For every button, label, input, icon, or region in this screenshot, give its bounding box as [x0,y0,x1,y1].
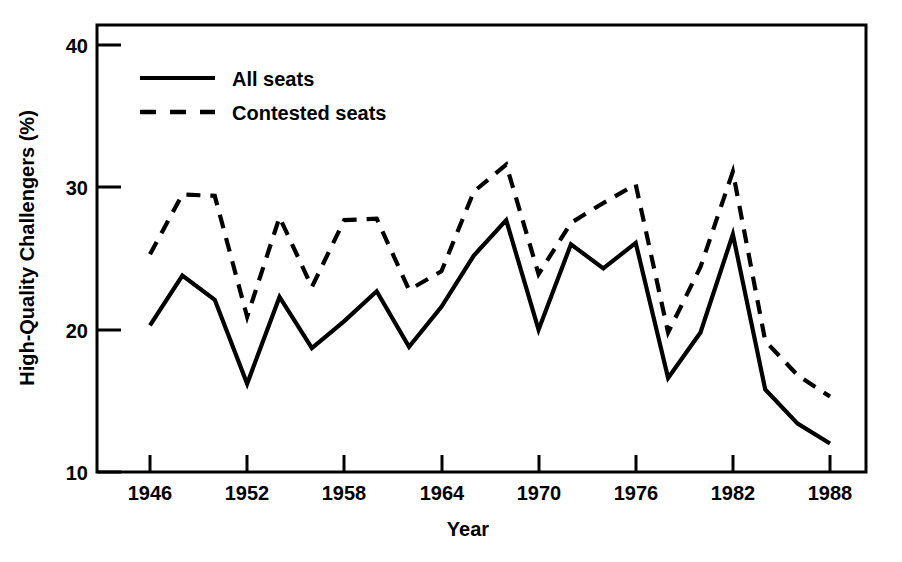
chart-figure: 40 30 20 10 High-Quality Challengers (%)… [0,0,902,562]
y-axis-title: High-Quality Challengers (%) [16,110,38,386]
y-axis-tick-labels: 40 30 20 10 [66,35,88,484]
y-axis-ticks [97,45,121,472]
y-tick-label-30: 30 [66,177,88,199]
x-tick-label-1970: 1970 [517,482,562,504]
x-tick-label-1952: 1952 [225,482,270,504]
x-tick-label-1964: 1964 [420,482,465,504]
series-line-contested-seats [150,165,830,397]
x-tick-label-1976: 1976 [614,482,659,504]
x-tick-label-1988: 1988 [808,482,853,504]
y-tick-label-10: 10 [66,462,88,484]
legend-label-all-seats: All seats [232,68,314,90]
y-tick-label-20: 20 [66,320,88,342]
y-tick-label-40: 40 [66,35,88,57]
x-tick-label-1982: 1982 [711,482,756,504]
series-line-all-seats [150,220,830,443]
x-axis-title: Year [447,518,489,540]
legend: All seats Contested seats [140,68,387,124]
x-axis-tick-labels: 1946 1952 1958 1964 1970 1976 1982 1988 [128,482,853,504]
x-tick-label-1946: 1946 [128,482,173,504]
line-chart: 40 30 20 10 High-Quality Challengers (%)… [0,0,902,562]
x-tick-label-1958: 1958 [322,482,367,504]
legend-label-contested-seats: Contested seats [232,102,387,124]
x-axis-ticks [150,455,830,472]
